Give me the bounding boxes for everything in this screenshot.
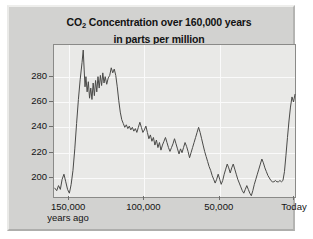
x-axis-tick-label: 150,000years ago (33, 201, 103, 223)
y-axis-tick-mark (49, 126, 53, 127)
chart-panel: CO2 Concentration over 160,000 years in … (7, 5, 295, 231)
x-axis-tick-mark (219, 196, 220, 200)
chart-subtitle: in parts per million (114, 33, 205, 45)
y-axis-tick-label: 220 (21, 146, 47, 157)
x-axis-tick-mark (293, 196, 294, 200)
data-series-line (54, 45, 295, 197)
y-axis-tick-mark (49, 152, 53, 153)
chart-title-co-prefix: CO (67, 16, 82, 28)
x-axis-tick-label: Today (259, 201, 313, 212)
x-axis-tick-label-primary: 150,000 (33, 201, 103, 212)
y-axis-tick-label: 200 (21, 171, 47, 182)
x-axis-tick-mark (68, 196, 69, 200)
x-axis-tick-label: 100,000 (108, 201, 178, 212)
y-axis-tick-label: 280 (21, 70, 47, 81)
x-axis-tick-label: 50,000 (184, 201, 254, 212)
chart-title-line1-rest: Concentration over 160,000 years (86, 16, 251, 28)
chart-title-line1: CO2 Concentration over 160,000 years (67, 16, 252, 28)
chart-title: CO2 Concentration over 160,000 years in … (21, 16, 297, 45)
y-axis-tick-mark (49, 76, 53, 77)
y-axis-tick-label: 240 (21, 120, 47, 131)
x-axis-tick-mark (143, 196, 144, 200)
x-axis-unit-label: years ago (33, 212, 103, 223)
y-axis-tick-mark (49, 101, 53, 102)
plot-area (53, 44, 296, 198)
y-axis-tick-label: 260 (21, 95, 47, 106)
y-axis-tick-mark (49, 177, 53, 178)
chart-figure: CO2 Concentration over 160,000 years in … (0, 0, 313, 239)
